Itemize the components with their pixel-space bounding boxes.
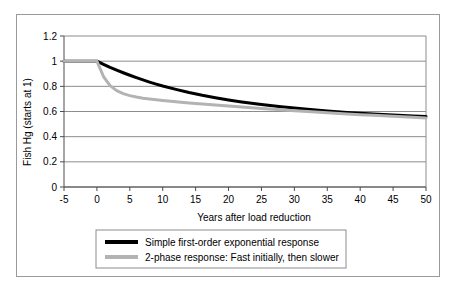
x-tick-label: 50 — [420, 194, 432, 205]
x-tick-label: 0 — [94, 194, 100, 205]
x-tick-label: 10 — [157, 194, 169, 205]
gridlines-group — [64, 36, 426, 187]
x-tick-label: 25 — [256, 194, 268, 205]
x-tick-label: 5 — [127, 194, 133, 205]
y-tick-label: 0.8 — [43, 81, 57, 92]
y-tick-label: 1.2 — [43, 31, 57, 42]
x-tick-label: 30 — [289, 194, 301, 205]
x-tick-label: 45 — [388, 194, 400, 205]
y-tick-label: 0.4 — [43, 131, 57, 142]
x-tick-label: 40 — [355, 194, 367, 205]
y-tick-label: 0 — [51, 182, 57, 193]
y-tick-label: 0.6 — [43, 106, 57, 117]
x-tick-label: 35 — [322, 194, 334, 205]
legend-label: 2-phase response: Fast initially, then s… — [145, 252, 339, 263]
legend-label: Simple first-order exponential response — [145, 237, 319, 248]
x-tick-label: 20 — [223, 194, 235, 205]
chart-legend: Simple first-order exponential response2… — [96, 230, 346, 268]
x-tick-label: 15 — [190, 194, 202, 205]
y-tick-label: 1 — [51, 56, 57, 67]
y-axis-title: Fish Hg (starts at 1) — [22, 78, 33, 166]
y-tick-label: 0.2 — [43, 156, 57, 167]
x-axis-tick-labels: -505101520253035404550 — [60, 194, 432, 205]
mercury-response-line-chart: 00.20.40.60.811.2 -505101520253035404550… — [17, 15, 439, 276]
data-series-group — [64, 61, 426, 118]
x-axis-title: Years after load reduction — [197, 212, 311, 223]
x-tick-label: -5 — [60, 194, 69, 205]
y-axis-tick-labels: 00.20.40.60.811.2 — [43, 31, 57, 193]
chart-figure: 00.20.40.60.811.2 -505101520253035404550… — [16, 14, 440, 277]
